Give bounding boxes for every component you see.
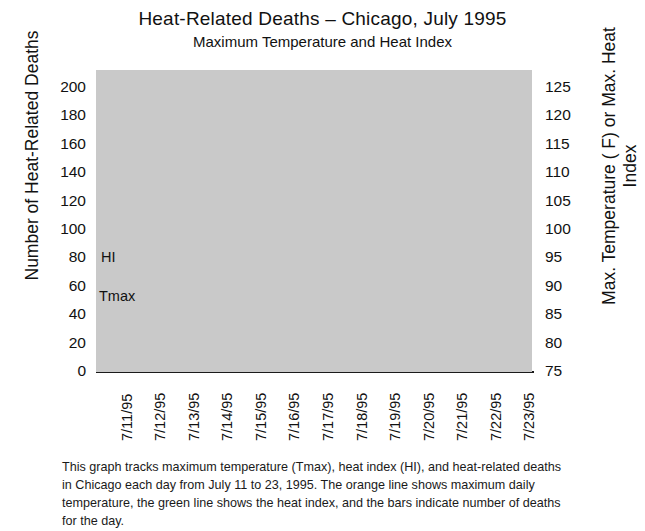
plot-area <box>96 70 532 372</box>
x-tick-label: 7/17/95 <box>320 393 336 441</box>
x-tick-label: 7/13/95 <box>186 393 202 441</box>
chart-title: Heat-Related Deaths – Chicago, July 1995 <box>0 8 645 30</box>
y2-tick-label: 80 <box>545 334 585 352</box>
y-tick-label: 20 <box>30 334 86 352</box>
x-tick-label: 7/21/95 <box>454 393 470 441</box>
y2-tick-label: 110 <box>545 163 585 181</box>
x-tick-label: 7/20/95 <box>421 393 437 441</box>
y-tick-label: 180 <box>30 106 86 124</box>
chart-caption: This graph tracks maximum temperature (T… <box>62 459 562 531</box>
plot-background <box>96 70 532 372</box>
y2-tick-label: 90 <box>545 277 585 295</box>
x-tick-label: 7/23/95 <box>521 393 537 441</box>
y2-tick-label: 105 <box>545 192 585 210</box>
y-tick-label: 160 <box>30 135 86 153</box>
y-tick-label: 200 <box>30 78 86 96</box>
y-tick-label: 100 <box>30 220 86 238</box>
x-tick-label: 7/15/95 <box>253 393 269 441</box>
y-tick-label: 40 <box>30 305 86 323</box>
y-tick-label: 0 <box>30 362 86 380</box>
x-tick-label: 7/19/95 <box>387 393 403 441</box>
x-tick-label: 7/16/95 <box>286 393 302 441</box>
y-axis-title-right: Max. Temperature ( F) or Max. Heat Index <box>599 16 641 316</box>
chart-subtitle: Maximum Temperature and Heat Index <box>0 33 645 50</box>
x-tick-label: 7/18/95 <box>354 393 370 441</box>
x-tick-label: 7/22/95 <box>488 393 504 441</box>
x-tick-label: 7/11/95 <box>119 394 135 441</box>
y-tick-label: 140 <box>30 163 86 181</box>
x-tick-label: 7/12/95 <box>152 393 168 441</box>
x-tick-label: 7/14/95 <box>219 393 235 441</box>
y2-tick-label: 95 <box>545 248 585 266</box>
y2-tick-label: 75 <box>545 362 585 380</box>
y2-tick-label: 125 <box>545 78 585 96</box>
y-tick-label: 120 <box>30 192 86 210</box>
y-tick-label: 60 <box>30 277 86 295</box>
series-annotation-hi: HI <box>101 249 116 265</box>
y2-tick-label: 120 <box>545 106 585 124</box>
series-annotation-tmax: Tmax <box>99 288 135 304</box>
y-tick-label: 80 <box>30 248 86 266</box>
y2-tick-label: 100 <box>545 220 585 238</box>
y2-tick-label: 85 <box>545 305 585 323</box>
y2-tick-label: 115 <box>545 135 585 153</box>
